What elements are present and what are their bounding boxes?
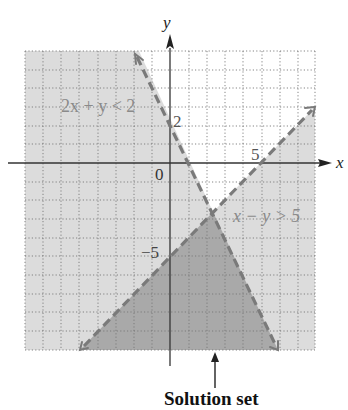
- solution-set-label: Solution set: [164, 388, 259, 409]
- inequality-label-1: 2x + y < 2: [61, 96, 135, 116]
- origin-label: 0: [155, 165, 164, 184]
- inequality-label-2: x − y > 5: [232, 206, 300, 226]
- x-axis-label: x: [335, 153, 344, 172]
- y-axis-label: y: [161, 13, 171, 32]
- tick-label-x-5: 5: [251, 145, 260, 164]
- annotation-arrow-icon: [211, 352, 219, 362]
- tick-label-y-2: 2: [173, 112, 182, 131]
- y-axis-arrow-icon: [166, 34, 174, 49]
- x-axis-arrow-icon: [318, 159, 332, 167]
- tick-label-y-neg5: −5: [141, 243, 159, 262]
- inequality-graph: y x 0 5 2 −5 2x + y < 2 x − y > 5 Soluti…: [0, 0, 348, 410]
